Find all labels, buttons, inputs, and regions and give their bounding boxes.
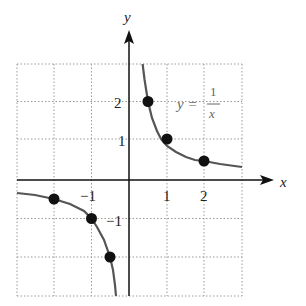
x-axis-label: x xyxy=(279,174,287,190)
point-neg0.5-neg2 xyxy=(105,252,116,263)
y-tick-1: 1 xyxy=(118,133,126,149)
x-tick-1: 1 xyxy=(163,188,171,204)
point-2-0.5 xyxy=(199,156,210,167)
equation-numerator: 1 xyxy=(210,84,217,99)
point-0.5-2 xyxy=(143,96,154,107)
equation-label: y = 1 x xyxy=(175,84,220,121)
equation-lhs: y = xyxy=(175,96,198,112)
x-tick-2: 2 xyxy=(200,188,208,204)
curve-positive-branch xyxy=(143,64,242,167)
y-tick-neg1: −1 xyxy=(106,213,122,229)
y-tick-2: 2 xyxy=(114,95,122,111)
point-1-1 xyxy=(162,134,173,145)
point-neg1-neg1 xyxy=(86,213,97,224)
curve-negative-branch xyxy=(17,193,116,296)
graph: y x −1 1 2 2 1 −1 y = 1 x xyxy=(0,0,306,306)
equation-denominator: x xyxy=(208,106,215,121)
x-tick-neg1: −1 xyxy=(80,188,96,204)
point-neg2-neg0.5 xyxy=(49,194,60,205)
y-axis-label: y xyxy=(122,9,131,25)
